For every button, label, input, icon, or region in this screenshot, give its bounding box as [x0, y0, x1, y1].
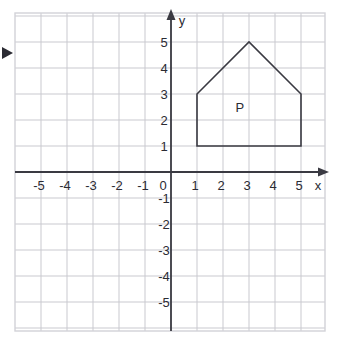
- x-axis-label: x: [315, 178, 322, 193]
- y-tick-label: 5: [160, 35, 167, 50]
- y-tick-label: 2: [160, 113, 167, 128]
- y-tick-label: 3: [160, 87, 167, 102]
- x-tick-label: 1: [191, 178, 198, 193]
- shape-label-p: P: [236, 100, 245, 115]
- y-axis-label: y: [179, 13, 186, 28]
- x-tick-label: 4: [269, 178, 276, 193]
- x-tick-label: -1: [137, 178, 149, 193]
- x-tick-label: 2: [217, 178, 224, 193]
- y-tick-label: -3: [158, 243, 170, 258]
- y-tick-label: 1: [160, 139, 167, 154]
- coordinate-plane-figure: y x 0 -5-4-3-2-112345 54321-1-2-3-4-5 P: [0, 0, 341, 352]
- y-tick-label: 4: [160, 61, 167, 76]
- y-tick-label: -1: [158, 191, 170, 206]
- x-tick-label: 3: [243, 178, 250, 193]
- x-tick-label: -5: [33, 178, 45, 193]
- x-tick-label: 5: [295, 178, 302, 193]
- x-tick-label: -2: [111, 178, 123, 193]
- x-tick-label: -3: [85, 178, 97, 193]
- left-edge-arrow-marker-icon: [2, 47, 13, 59]
- y-tick-label: -2: [158, 217, 170, 232]
- x-tick-label: -4: [59, 178, 71, 193]
- y-tick-label: -4: [158, 269, 170, 284]
- shape-labels-layer: P: [236, 100, 245, 115]
- graph-svg: y x 0 -5-4-3-2-112345 54321-1-2-3-4-5 P: [0, 0, 341, 352]
- y-tick-label: -5: [158, 295, 170, 310]
